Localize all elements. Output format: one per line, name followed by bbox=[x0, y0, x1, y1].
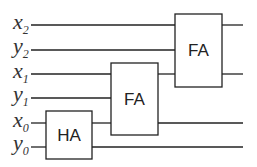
ha-label: HA bbox=[57, 126, 81, 145]
label-y2: y2 bbox=[11, 33, 29, 61]
fa-mid-label: FA bbox=[124, 90, 145, 109]
input-labels: x2 y2 x1 y1 x0 y0 bbox=[11, 9, 29, 158]
adder-diagram: FA FA HA x2 y2 x1 y1 x0 y0 bbox=[0, 0, 257, 167]
fa-top-label: FA bbox=[188, 41, 209, 60]
